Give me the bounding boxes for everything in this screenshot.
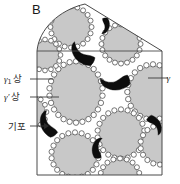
precipitate-bead: [49, 156, 54, 161]
precipitate-bead: [130, 26, 135, 31]
precipitate-bead: [23, 102, 28, 107]
precipitate-bead: [85, 171, 90, 176]
precipitate-bead: [81, 41, 86, 46]
precipitate-bead: [100, 35, 105, 40]
precipitate-bead: [95, 72, 100, 77]
precipitate-bead: [112, 60, 117, 65]
precipitate-bead: [49, 38, 54, 43]
precipitate-bead: [125, 108, 130, 113]
precipitate-bead: [134, 53, 139, 58]
annotation-symbol: γ: [166, 73, 170, 83]
precipitate-bead: [145, 127, 150, 132]
precipitate-bead: [86, 116, 91, 121]
precipitate-bead: [177, 146, 180, 151]
precipitate-bead: [100, 48, 105, 53]
precipitate-bead: [56, 112, 61, 117]
grain-core-5: [103, 26, 139, 62]
microstructure-diagram: Bγ1상γ′상기포γ: [0, 0, 180, 184]
precipitate-bead: [47, 86, 52, 91]
precipitate-bead: [52, 12, 57, 17]
precipitate-bead: [79, 131, 84, 136]
precipitate-bead: [138, 42, 143, 47]
precipitate-bead: [103, 53, 108, 58]
precipitate-bead: [136, 115, 141, 120]
grain-2: [95, 107, 147, 161]
precipitate-bead: [125, 23, 130, 28]
annotation-hangul: 기포: [8, 121, 26, 132]
precipitate-bead: [137, 65, 142, 70]
precipitate-bead: [62, 5, 67, 10]
precipitate-bead: [151, 161, 156, 166]
precipitate-bead: [60, 133, 65, 138]
precipitate-bead: [174, 133, 179, 138]
precipitate-bead: [107, 57, 112, 62]
precipitate-bead: [95, 128, 100, 133]
precipitate-bead: [168, 109, 173, 114]
annotation-text-pore: 기포: [8, 121, 26, 132]
annotation-subscript: 1: [8, 78, 12, 86]
precipitate-bead: [130, 57, 135, 62]
annotation-hangul: 상: [13, 73, 22, 84]
precipitate-bead: [43, 102, 48, 107]
precipitate-bead: [140, 121, 145, 126]
precipitate-bead: [38, 97, 43, 102]
precipitate-bead: [72, 130, 77, 135]
precipitate-bead: [140, 152, 145, 157]
precipitate-bead: [100, 93, 105, 98]
precipitate-bead: [98, 177, 103, 182]
precipitate-bead: [67, 119, 72, 124]
precipitate-bead: [55, 167, 60, 172]
precipitate-bead: [112, 108, 117, 113]
precipitate-bead: [88, 31, 93, 36]
precipitate-bead: [88, 18, 93, 23]
precipitate-bead: [32, 64, 37, 69]
figure-panel-b: Bγ1상γ′상기포γ γ₁ 상 (matrix phase): [0, 0, 180, 184]
precipitate-bead: [111, 157, 116, 162]
precipitate-bead: [144, 63, 149, 68]
precipitate-bead: [54, 42, 59, 47]
precipitate-bead: [145, 157, 150, 162]
precipitate-bead: [173, 75, 178, 80]
precipitate-bead: [97, 121, 102, 126]
precipitate-bead: [21, 110, 26, 115]
precipitate-bead: [56, 8, 61, 13]
precipitate-bead: [27, 97, 32, 102]
precipitate-bead: [119, 61, 124, 66]
precipitate-bead: [105, 160, 110, 165]
precipitate-bead: [150, 62, 155, 67]
precipitate-bead: [134, 182, 139, 184]
precipitate-bead: [101, 165, 106, 170]
annotation-text-gamma-phase-right: γ: [166, 73, 170, 83]
precipitate-bead: [132, 70, 137, 75]
precipitate-bead: [28, 59, 33, 64]
precipitate-bead: [164, 161, 169, 166]
precipitate-bead: [54, 64, 59, 69]
grain-6: [27, 37, 63, 73]
precipitate-bead: [85, 12, 90, 17]
precipitate-bead: [118, 107, 123, 112]
precipitate-bead: [138, 146, 143, 151]
precipitate-bead: [51, 143, 56, 148]
precipitate-bead: [28, 47, 33, 52]
precipitate-bead: [126, 96, 131, 101]
precipitate-bead: [134, 165, 139, 170]
precipitate-bead: [125, 60, 130, 65]
precipitate-bead: [140, 133, 145, 138]
precipitate-bead: [85, 37, 90, 42]
precipitate-bead: [61, 62, 66, 67]
precipitate-bead: [51, 72, 56, 77]
precipitate-bead: [174, 152, 179, 157]
annotation-text-gamma1-phase: γ1상: [4, 73, 22, 86]
annotation-hangul: 상: [11, 91, 20, 102]
precipitate-bead: [164, 124, 169, 129]
precipitate-bead: [137, 48, 142, 53]
precipitate-bead: [49, 67, 54, 72]
precipitate-bead: [99, 42, 104, 47]
precipitate-bead: [43, 68, 48, 73]
precipitate-bead: [66, 131, 71, 136]
precipitate-bead: [72, 175, 77, 180]
precipitate-bead: [57, 59, 62, 64]
precipitate-bead: [106, 152, 111, 157]
panel-letter: B: [32, 2, 41, 17]
precipitate-bead: [47, 93, 52, 98]
